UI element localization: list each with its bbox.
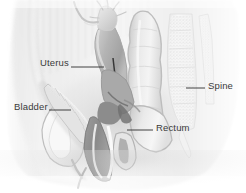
top-white-wash [0, 0, 246, 8]
anatomy-diagram-canvas: Uterus Bladder Spine Rectum [0, 0, 246, 193]
anatomy-illustration: Uterus Bladder Spine Rectum [0, 0, 246, 193]
label-uterus-text: Uterus [40, 57, 69, 68]
label-rectum-text: Rectum [156, 122, 190, 133]
label-bladder-text: Bladder [14, 101, 48, 112]
label-spine-text: Spine [208, 80, 233, 91]
bottom-white-wash [0, 176, 246, 193]
